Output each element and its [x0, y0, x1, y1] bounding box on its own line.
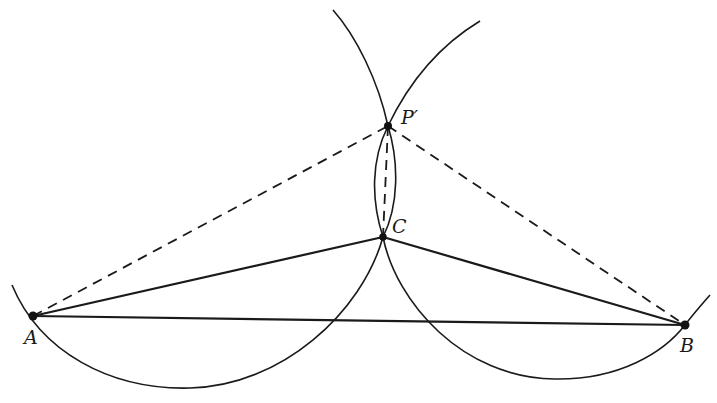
segment-ab — [33, 316, 685, 325]
dashed-line-a-pprime — [33, 126, 388, 316]
segment-cb — [383, 237, 685, 325]
point-p-prime — [384, 122, 392, 130]
point-c — [379, 233, 387, 241]
geometric-construction-diagram: A B C P′ — [0, 0, 717, 403]
point-a — [29, 312, 38, 321]
label-c: C — [392, 215, 407, 237]
dashed-line-pprime-c — [383, 126, 388, 237]
label-a: A — [22, 326, 38, 348]
point-b — [681, 321, 690, 330]
segment-ac — [33, 237, 383, 316]
label-p-prime: P′ — [400, 106, 419, 128]
left-arc — [12, 21, 480, 388]
label-b: B — [679, 334, 694, 356]
dashed-line-pprime-b — [388, 126, 685, 325]
